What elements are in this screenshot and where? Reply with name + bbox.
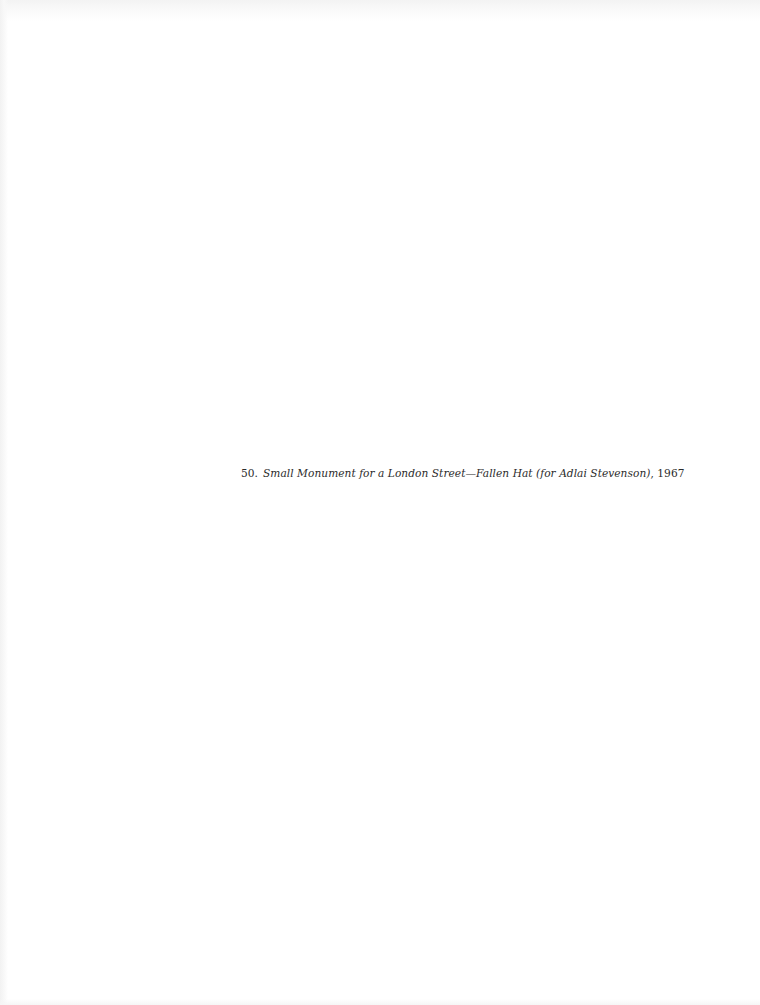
scan-edge-bottom — [0, 999, 760, 1005]
figure-year: , 1967 — [650, 467, 684, 479]
figure-number: 50. — [241, 467, 258, 479]
scan-edge-top — [0, 0, 760, 22]
document-page: 50.Small Monument for a London Street—Fa… — [0, 0, 760, 1005]
figure-title: Small Monument for a London Street—Falle… — [263, 467, 650, 479]
figure-caption: 50.Small Monument for a London Street—Fa… — [241, 466, 684, 480]
scan-edge-left — [0, 0, 8, 1005]
